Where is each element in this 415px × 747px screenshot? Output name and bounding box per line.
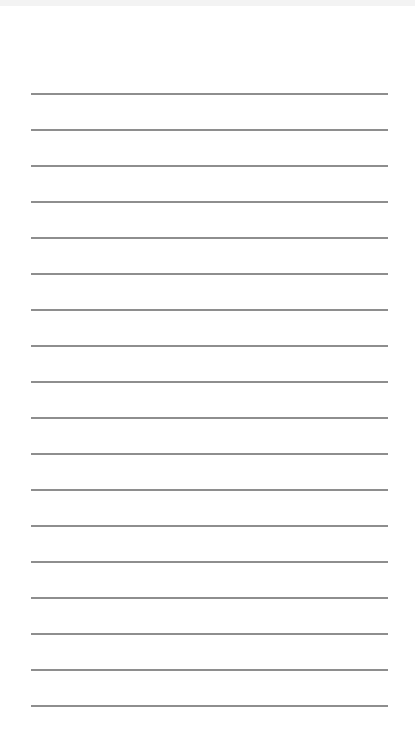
ruled-line xyxy=(31,597,388,599)
ruled-line xyxy=(31,273,388,275)
ruled-line xyxy=(31,561,388,563)
ruled-line xyxy=(31,705,388,707)
ruled-line xyxy=(31,93,388,95)
ruled-line xyxy=(31,453,388,455)
ruled-line xyxy=(31,381,388,383)
ruled-line xyxy=(31,633,388,635)
ruled-line xyxy=(31,129,388,131)
top-edge-band xyxy=(0,0,415,6)
ruled-line xyxy=(31,309,388,311)
ruled-line xyxy=(31,489,388,491)
ruled-line xyxy=(31,669,388,671)
ruled-line xyxy=(31,237,388,239)
ruled-line xyxy=(31,165,388,167)
ruled-line xyxy=(31,417,388,419)
ruled-line xyxy=(31,201,388,203)
ruled-line xyxy=(31,345,388,347)
ruled-line xyxy=(31,525,388,527)
